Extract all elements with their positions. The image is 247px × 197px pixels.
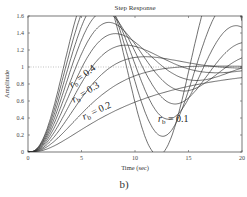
x-tick-label: 20 bbox=[239, 155, 245, 161]
rb-annotation: rb = 0.2 bbox=[80, 99, 113, 124]
y-tick-label: 0.4 bbox=[17, 115, 25, 121]
y-tick-label: 0.2 bbox=[17, 132, 25, 138]
x-tick-label: 5 bbox=[80, 155, 83, 161]
y-tick-label: 1 bbox=[21, 64, 24, 70]
plot-area: 0510152000.20.40.60.811.21.41.6rb = 0.4r… bbox=[17, 0, 246, 161]
y-tick-label: 0 bbox=[21, 149, 24, 155]
y-tick-label: 1.2 bbox=[17, 47, 25, 53]
response-curve bbox=[28, 57, 242, 152]
y-tick-label: 1.6 bbox=[17, 13, 25, 19]
x-tick-label: 10 bbox=[132, 155, 138, 161]
chart-title: Step Response bbox=[114, 4, 155, 12]
y-tick-label: 0.8 bbox=[17, 81, 25, 87]
figure-caption: b) bbox=[119, 178, 129, 191]
x-tick-label: 15 bbox=[186, 155, 192, 161]
x-tick-label: 0 bbox=[27, 155, 30, 161]
x-axis-label: Time (sec) bbox=[121, 164, 149, 172]
y-axis-label: Amplitude bbox=[3, 70, 10, 98]
y-tick-label: 1.4 bbox=[17, 30, 25, 36]
axes-frame bbox=[28, 16, 242, 152]
response-curve bbox=[28, 0, 242, 155]
step-response-chart: Step Response 0510152000.20.40.60.811.21… bbox=[0, 0, 247, 197]
rb-annotation: rb = 0.1 bbox=[158, 113, 189, 126]
y-tick-label: 0.6 bbox=[17, 98, 25, 104]
